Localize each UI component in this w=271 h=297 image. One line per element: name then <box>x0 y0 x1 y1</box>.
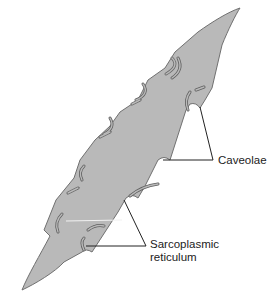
smooth-muscle-cell-diagram <box>0 0 271 297</box>
caveolae-label: Caveolae <box>218 154 267 167</box>
sarcoplasmic-reticulum-label: Sarcoplasmic reticulum <box>150 238 219 264</box>
sarcoplasmic-reticulum-label-line2: reticulum <box>150 251 219 264</box>
sarcoplasmic-reticulum-label-line1: Sarcoplasmic <box>150 238 219 251</box>
